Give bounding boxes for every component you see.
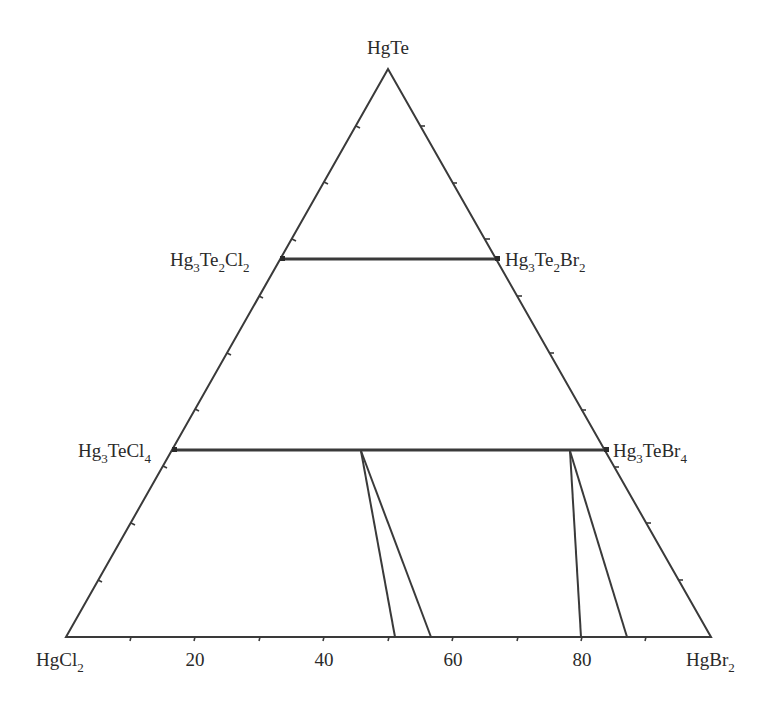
compound-points [172, 256, 609, 452]
base-tick-label-20: 20 [186, 649, 205, 670]
base-tick-label-40: 40 [315, 649, 334, 670]
vertex-label-hgcl2: HgCl2 [36, 649, 84, 675]
compound-label-hg3te2br2: Hg3Te2Br2 [505, 249, 585, 275]
left-edge-ticks [98, 126, 360, 582]
tie-line-inner-1a [361, 451, 395, 637]
tie-line-inner-1b [361, 451, 431, 637]
base-tick-label-80: 80 [573, 649, 592, 670]
triangle-outline [66, 69, 711, 637]
compound-label-hg3tebr4: Hg3TeBr4 [613, 440, 687, 466]
vertex-label-hgte: HgTe [367, 37, 409, 58]
compound-label-hg3te2cl2: Hg3Te2Cl2 [170, 249, 249, 275]
compound-label-hg3tecl4: Hg3TeCl4 [78, 440, 151, 466]
base-tick-label-60: 60 [444, 649, 463, 670]
vertex-label-hgbr2: HgBr2 [686, 649, 735, 675]
ternary-diagram: HgTe HgCl2 HgBr2 Hg3Te2Cl2 Hg3Te2Br2 Hg3… [0, 0, 780, 701]
